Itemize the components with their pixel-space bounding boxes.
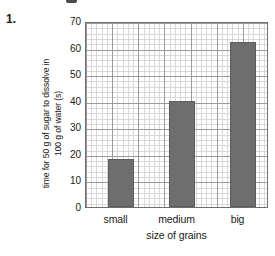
y-tick-label: 40 <box>57 97 81 107</box>
x-axis-title: size of grains <box>85 229 268 241</box>
chart-plot-area <box>85 22 268 208</box>
y-tick-label: 0 <box>57 203 81 213</box>
y-tick-label: 20 <box>57 150 81 160</box>
bar-small <box>108 159 134 207</box>
x-category-label: small <box>85 212 146 226</box>
bar-medium <box>169 101 195 207</box>
y-tick-label: 10 <box>57 176 81 186</box>
cropped-heading-glyph <box>66 0 77 3</box>
x-category-label: big <box>207 212 268 226</box>
x-category-label: medium <box>146 212 207 226</box>
y-tick-label: 50 <box>57 70 81 80</box>
y-tick-label: 70 <box>57 17 81 27</box>
question-number: 1. <box>6 12 16 26</box>
y-axis-tick-labels: 010203040506070 <box>57 15 81 215</box>
y-tick-label: 30 <box>57 123 81 133</box>
y-axis-title-line-1: time for 50 g of sugar to dissolve in <box>41 26 53 222</box>
bar-big <box>230 42 256 207</box>
x-axis-category-labels: smallmediumbig <box>85 212 268 228</box>
y-tick-label: 60 <box>57 44 81 54</box>
